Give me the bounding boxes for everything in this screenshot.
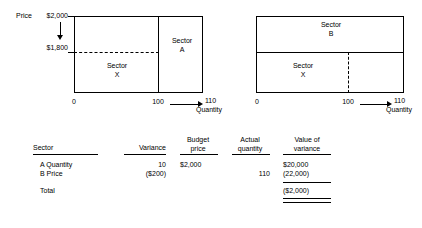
left-chart-divider-at-100: [158, 16, 159, 93]
table-rule-value-of-variance: [283, 154, 331, 155]
table-rule-variance: [124, 154, 166, 155]
table-header-value-of-variance-line1: Value of: [294, 136, 319, 143]
right-chart-sector-x-line2: X: [301, 71, 306, 78]
left-chart-x-origin-label: 0: [64, 98, 84, 106]
table-rule-total-top: [283, 182, 331, 183]
table-cell-budget-price: $2,000: [180, 161, 201, 170]
left-chart-dashed-price-line: [74, 52, 159, 53]
table-row: B Price: [40, 170, 63, 179]
left-chart-sector-a-line1: Sector: [172, 37, 192, 44]
right-chart-x-mid-label: 100: [338, 98, 358, 106]
table-header-value-of-variance: Value of variance: [280, 136, 334, 153]
table-rule-sector: [33, 154, 98, 155]
table-header-actual-quantity-line1: Actual: [240, 136, 259, 143]
left-chart-sector-a-line2: A: [180, 46, 185, 53]
left-chart-x-axis-label: Quantity: [196, 106, 222, 114]
table-cell-variance: ($200): [118, 170, 166, 179]
right-chart-sector-x-line1: Sector: [293, 62, 313, 69]
right-chart-x-end-label: 110: [394, 97, 405, 105]
left-chart-sector-a-label: Sector A: [162, 37, 202, 54]
table-header-actual-quantity: Actual quantity: [226, 136, 274, 153]
left-chart-x-mid-label: 100: [148, 98, 168, 106]
table-total-value-of-variance: ($2,000): [283, 187, 309, 196]
right-chart-sector-b-line1: Sector: [321, 21, 341, 28]
table-rule-total-double: [283, 198, 331, 203]
table-row: A Quantity: [40, 161, 72, 170]
table-cell-actual-quantity: 110: [228, 170, 270, 179]
left-chart-price-mid-label: $1,800: [26, 44, 68, 52]
right-chart-sector-x-label: Sector X: [272, 62, 334, 79]
right-chart-x-origin-label: 0: [247, 98, 267, 106]
table-rule-budget-price: [180, 154, 218, 155]
table-cell-variance: 10: [118, 161, 166, 170]
table-header-sector: Sector: [33, 144, 53, 153]
left-chart-box: [74, 16, 203, 93]
table-cell-value-of-variance: $20,000: [283, 161, 308, 170]
right-chart-sector-b-label: Sector B: [300, 21, 362, 38]
table-header-budget-price-line2: price: [190, 145, 205, 152]
table-header-budget-price-line1: Budget: [187, 136, 209, 143]
right-chart-dashed-quantity-line: [348, 52, 349, 93]
table-header-actual-quantity-line2: quantity: [238, 145, 263, 152]
table-total-label: Total: [40, 187, 55, 196]
right-chart-x-axis-label: Quantity: [386, 106, 412, 114]
table-cell-sector: B Price: [40, 170, 63, 177]
left-chart-sector-x-line2: X: [115, 71, 120, 78]
left-chart-price-top-label: $2,000: [26, 12, 68, 20]
table-header-budget-price: Budget price: [176, 136, 220, 153]
table-header-value-of-variance-line2: variance: [294, 145, 320, 152]
table-header-variance: Variance: [118, 144, 166, 153]
left-chart-sector-x-line1: Sector: [107, 62, 127, 69]
price-decrease-arrow-icon: [57, 22, 63, 40]
table-cell-value-of-variance: (22,000): [283, 170, 309, 179]
right-chart-divider: [256, 52, 404, 53]
right-chart-sector-b-line2: B: [329, 30, 334, 37]
left-chart-sector-x-label: Sector X: [86, 62, 148, 79]
left-chart-x-end-label: 110: [205, 97, 216, 105]
table-rule-actual-quantity: [232, 154, 270, 155]
figure-root: Price $2,000 $1,800 Sector X Sector A 0: [0, 0, 422, 228]
table-cell-sector: A Quantity: [40, 161, 72, 168]
